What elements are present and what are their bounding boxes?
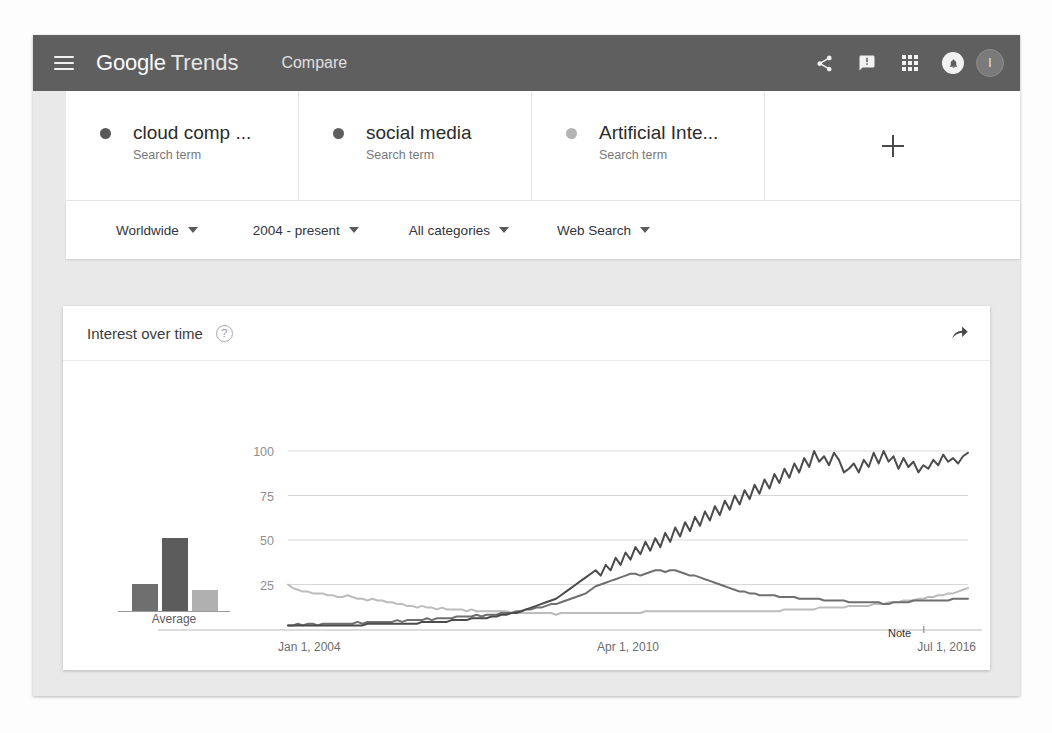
chevron-down-icon	[349, 227, 359, 233]
series-color-dot-3	[566, 128, 577, 139]
filter-time-range[interactable]: 2004 - present	[253, 223, 359, 238]
interest-over-time-card: Interest over time ? A	[63, 306, 990, 670]
brand-trends-label: Trends	[171, 50, 239, 76]
series-color-dot-2	[333, 128, 344, 139]
card-header: Interest over time ?	[63, 306, 990, 361]
note-annotation-label: Note	[888, 627, 911, 639]
filter-search-type[interactable]: Web Search	[557, 223, 650, 238]
series-line-3	[288, 585, 968, 615]
filter-category[interactable]: All categories	[409, 223, 509, 238]
filter-location[interactable]: Worldwide	[116, 223, 198, 238]
x-axis-tick-label: Apr 1, 2010	[597, 640, 659, 654]
trends-line-chart: 255075100Jan 1, 2004Apr 1, 2010Jul 1, 20…	[63, 361, 990, 669]
chevron-down-icon	[499, 227, 509, 233]
add-search-term-button[interactable]	[765, 91, 1020, 201]
search-term-chip-2[interactable]: social media Search term	[299, 91, 532, 201]
brand-google-label: Google	[96, 50, 166, 76]
plot-area: Average 255075100Jan 1, 2004Apr 1, 2010J…	[63, 361, 990, 669]
avatar[interactable]: I	[976, 49, 1004, 77]
chevron-down-icon	[640, 227, 650, 233]
search-term-type-2: Search term	[366, 148, 531, 162]
search-term-label-1: cloud comp ...	[133, 121, 251, 145]
search-term-chip-3[interactable]: Artificial Inte... Search term	[532, 91, 765, 201]
filter-time-range-label: 2004 - present	[253, 223, 340, 238]
notifications-bell-icon[interactable]	[933, 43, 973, 83]
app-window: Google Trends Compare	[33, 35, 1020, 696]
apps-grid-icon[interactable]	[890, 43, 930, 83]
search-terms-row: cloud comp ... Search term social media …	[66, 91, 1020, 201]
filter-category-label: All categories	[409, 223, 490, 238]
help-question-icon[interactable]: ?	[216, 325, 233, 342]
search-term-label-2: social media	[366, 121, 472, 145]
series-color-dot-1	[100, 128, 111, 139]
search-term-label-3: Artificial Inte...	[599, 121, 718, 145]
filter-search-type-label: Web Search	[557, 223, 631, 238]
top-navigation-bar: Google Trends Compare	[33, 35, 1020, 91]
series-line-1	[288, 570, 968, 625]
series-line-2	[288, 451, 968, 625]
search-term-type-3: Search term	[599, 148, 764, 162]
y-axis-tick-label: 100	[253, 445, 274, 459]
x-axis-tick-label: Jul 1, 2016	[917, 640, 976, 654]
plus-icon	[882, 135, 904, 157]
top-bar-actions: I	[804, 43, 1020, 83]
search-term-type-1: Search term	[133, 148, 298, 162]
share-icon[interactable]	[804, 43, 844, 83]
page-root: Google Trends Compare	[0, 0, 1052, 733]
x-axis-tick-label: Jan 1, 2004	[278, 640, 341, 654]
hamburger-menu-icon[interactable]	[54, 56, 74, 70]
google-trends-logo[interactable]: Google Trends	[96, 50, 238, 76]
nav-item-compare[interactable]: Compare	[281, 54, 347, 72]
filter-location-label: Worldwide	[116, 223, 179, 238]
filter-bar: Worldwide 2004 - present All categories …	[66, 201, 1020, 259]
feedback-icon[interactable]	[847, 43, 887, 83]
y-axis-tick-label: 25	[260, 579, 274, 593]
page-title: Interest over time	[87, 325, 203, 342]
embed-share-arrow-icon[interactable]	[949, 322, 970, 344]
chevron-down-icon	[188, 227, 198, 233]
search-term-chip-1[interactable]: cloud comp ... Search term	[66, 91, 299, 201]
y-axis-tick-label: 50	[260, 534, 274, 548]
y-axis-tick-label: 75	[260, 490, 274, 504]
